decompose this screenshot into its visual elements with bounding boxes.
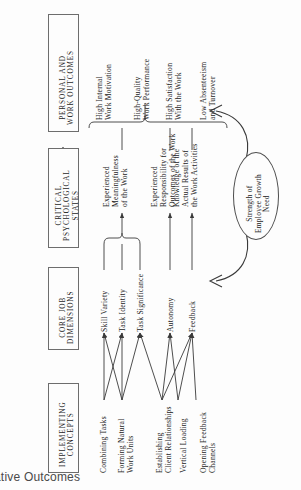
state-2-line2: Actual Results of [181, 150, 190, 207]
dimension-task-significance: Task Significance [137, 274, 146, 332]
state-2-line1: Knowledge of the [172, 149, 181, 207]
concept-vertical-loading: Vertical Loading [180, 418, 189, 473]
moderator-oval-employee-growth-need: Strength of Employee Growth Need [233, 152, 279, 240]
outcome-1-line1: High-Quality [133, 77, 142, 121]
concept-2-line2: Client Relationships [164, 406, 173, 473]
header-core-line2: DIMENSIONS [67, 291, 75, 344]
header-box-implementing-concepts: IMPLEMENTING CONCEPTS [48, 383, 79, 473]
concept-3-line1: Vertical Loading [179, 418, 188, 473]
concept-0-line1: Combining Tasks [99, 416, 108, 473]
state-experienced-meaningfulness: Experienced Meaningfulness of the Work [103, 155, 130, 207]
link-forming-to-task-significance [122, 333, 140, 400]
outcome-0-line2: Work Motivation [104, 64, 113, 120]
dimension-autonomy: Autonomy [167, 298, 176, 333]
concept-4-line1: Opening Feedback [199, 412, 208, 473]
moderator-arrow-upper [216, 111, 248, 160]
dimension-1-line1: Task Identity [118, 289, 127, 332]
dimension-2-line1: Task Significance [136, 274, 145, 332]
concept-1-line1: Forming Natural [117, 418, 126, 473]
moderator-line3: Need [262, 195, 271, 212]
header-outcomes-line1: PERSONAL AND [59, 55, 67, 120]
header-outcomes-line2: WORK OUTCOMES [67, 50, 75, 125]
header-box-personal-and-work-outcomes: PERSONAL AND WORK OUTCOMES [48, 14, 79, 132]
outcome-high-satisfaction-with-the-work: High Satisfaction With the Work [166, 63, 184, 120]
outcome-3-line2: and Turnover [208, 76, 217, 120]
state-2-line3: the Work Activities [190, 144, 199, 207]
link-opening-to-feedback [192, 333, 196, 400]
outcome-3-line1: Low Absenteeism [199, 62, 208, 120]
header-box-critical-psychological-states: CRITICAL PSYCHOLOGICAL STATES [48, 148, 79, 248]
state-1-line2: Responsibility for [159, 148, 168, 207]
header-implementing-line2: CONCEPTS [67, 412, 75, 456]
moderator-line1: Strength of [245, 185, 254, 221]
header-implementing-line1: IMPLEMENTING [59, 402, 67, 468]
header-states-line1: CRITICAL [55, 185, 63, 225]
header-states-line2: PSYCHOLOGICAL [63, 169, 71, 241]
concept-forming-natural-work-units: Forming Natural Work Units [118, 418, 136, 473]
figure-canvas: PERSONAL AND WORK OUTCOMES CRITICAL PSYC… [0, 0, 301, 490]
concept-establishing-client-relationships: Establishing Client Relationships [156, 406, 174, 473]
concept-1-line2: Work Units [126, 435, 135, 473]
concept-combining-tasks: Combining Tasks [100, 416, 109, 473]
state-0-line3: of the Work [120, 168, 129, 207]
state-knowledge-of-results: Knowledge of the Actual Results of the W… [173, 144, 200, 207]
outcome-1-line2: Work Performance [142, 59, 151, 120]
figure-caption-partial: ative Outcomes [0, 470, 80, 484]
dimension-task-identity: Task Identity [119, 289, 128, 332]
moderator-arrow-lower [216, 232, 248, 281]
dimension-skill-variety: Skill Variety [101, 291, 110, 332]
link-vertical-to-feedback [178, 333, 192, 400]
header-box-core-job-dimensions: CORE JOB DIMENSIONS [48, 267, 79, 350]
dimension-0-line1: Skill Variety [100, 291, 109, 332]
outcome-high-internal-work-motivation: High Internal Work Motivation [96, 64, 114, 120]
outcome-2-line1: High Satisfaction [165, 63, 174, 120]
outcome-0-line1: High Internal [95, 76, 104, 120]
state-0-line2: Meaningfulness [111, 155, 120, 207]
concept-opening-feedback-channels: Opening Feedback Channels [200, 412, 218, 473]
state-0-line1: Experienced [102, 166, 111, 207]
header-states-line3: STATES [72, 190, 80, 220]
dimension-3-line1: Autonomy [166, 298, 175, 333]
concept-4-line2: Channels [208, 443, 217, 473]
link-establishing-to-task-significance [140, 333, 162, 400]
outcome-2-line2: With the Work [174, 72, 183, 120]
moderator-line2: Employee Growth [254, 174, 263, 233]
link-establishing-to-autonomy [162, 333, 170, 400]
outcome-low-absenteeism-and-turnover: Low Absenteeism and Turnover [200, 62, 218, 120]
header-core-line1: CORE JOB [59, 297, 67, 338]
state-1-line1: Experienced [150, 166, 159, 207]
concept-2-line1: Establishing [155, 432, 164, 473]
dimension-4-line1: Feedback [188, 301, 197, 332]
brace-meaningfulness [104, 233, 140, 244]
dimension-feedback: Feedback [189, 301, 198, 332]
outcome-high-quality-work-performance: High-Quality Work Performance [134, 59, 152, 120]
